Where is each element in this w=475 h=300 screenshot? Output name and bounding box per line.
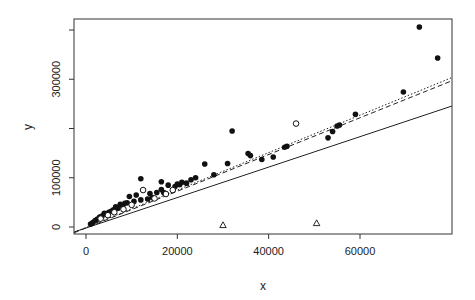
triangle-point: [220, 222, 226, 228]
filled-point: [259, 157, 265, 163]
x-tick-label: 60000: [345, 245, 376, 257]
solid-fit-line: [74, 106, 452, 232]
filled-point: [138, 176, 144, 182]
filled-point: [270, 154, 276, 160]
filled-point: [353, 111, 359, 117]
open-point: [129, 202, 135, 208]
filled-point: [245, 151, 251, 157]
open-point: [112, 209, 118, 215]
filled-point: [88, 221, 94, 227]
filled-point: [159, 179, 165, 185]
y-tick-label: 100000: [50, 159, 62, 196]
filled-point: [211, 172, 217, 178]
y-tick-label: 0: [50, 224, 62, 230]
filled-point: [229, 128, 235, 134]
plot-area: [74, 24, 452, 233]
filled-point: [127, 194, 133, 200]
filled-point: [154, 190, 160, 196]
y-tick-label: 300000: [50, 61, 62, 98]
open-point: [140, 187, 146, 193]
filled-point: [330, 129, 336, 135]
filled-point: [325, 135, 331, 141]
filled-point: [435, 55, 441, 61]
open-point: [152, 196, 158, 202]
filled-point: [133, 192, 139, 198]
x-tick-label: 20000: [162, 245, 193, 257]
triangle-point: [313, 220, 319, 226]
open-point: [98, 216, 104, 222]
filled-point: [282, 144, 288, 150]
x-tick-label: 40000: [253, 245, 284, 257]
y-axis: 0100000300000: [50, 30, 74, 230]
filled-point: [401, 89, 407, 95]
x-tick-label: 0: [83, 245, 89, 257]
y-axis-label: y: [21, 124, 35, 130]
open-point: [293, 121, 299, 127]
dashed-fit-line: [74, 81, 452, 233]
x-axis-label: x: [260, 279, 266, 293]
open-point: [121, 206, 127, 212]
filled-point: [417, 24, 423, 30]
filled-point: [188, 177, 194, 183]
filled-point: [334, 123, 340, 129]
dotted-fit-line: [74, 77, 452, 232]
open-point: [163, 191, 169, 197]
open-point: [170, 187, 176, 193]
filled-point: [165, 182, 171, 188]
scatter-plot: 0200004000060000 0100000300000 x y: [0, 0, 475, 300]
filled-point: [225, 161, 231, 167]
open-point: [105, 212, 111, 218]
filled-point: [202, 161, 208, 167]
x-axis: 0200004000060000: [83, 234, 375, 257]
filled-point: [138, 197, 144, 203]
